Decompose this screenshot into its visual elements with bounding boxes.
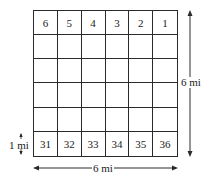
dimension-arrows xyxy=(0,0,213,179)
section-size-label: 1 mi xyxy=(9,140,29,151)
width-label: 6 mi xyxy=(92,163,114,174)
height-label: 6 mi xyxy=(181,77,201,88)
